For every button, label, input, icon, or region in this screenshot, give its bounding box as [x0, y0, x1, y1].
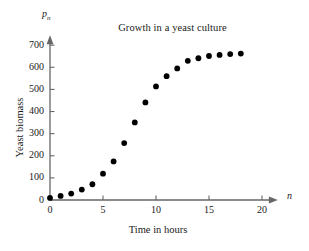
- data-point: [132, 120, 138, 126]
- y-tick-label: 300: [14, 127, 44, 138]
- data-point: [206, 53, 212, 59]
- tick-marks-group: [50, 45, 262, 200]
- y-tick-label: 200: [14, 149, 44, 160]
- data-point: [100, 171, 106, 177]
- y-axis-variable-symbol: pn: [42, 8, 51, 22]
- x-axis-label: Time in hours: [98, 224, 218, 235]
- y-tick-label: 100: [14, 171, 44, 182]
- data-point: [164, 73, 170, 79]
- x-tick-label: 20: [250, 204, 274, 215]
- data-point: [238, 51, 244, 57]
- y-tick-label: 600: [14, 61, 44, 72]
- axes-group: [47, 35, 278, 203]
- data-point: [68, 191, 74, 197]
- data-point: [143, 100, 149, 106]
- y-tick-label: 700: [14, 39, 44, 50]
- x-tick-label: 0: [38, 204, 62, 215]
- data-point: [79, 187, 85, 193]
- y-axis-variable-subscript: n: [47, 14, 51, 22]
- data-points-group: [47, 51, 244, 201]
- data-point: [121, 140, 127, 146]
- data-point: [227, 51, 233, 57]
- data-point: [47, 195, 53, 201]
- data-point: [174, 66, 180, 72]
- data-point: [196, 55, 202, 61]
- y-axis-arrowhead: [47, 35, 54, 44]
- data-point: [111, 158, 117, 164]
- x-axis-variable-symbol: n: [287, 190, 292, 201]
- data-point: [90, 181, 96, 187]
- x-tick-label: 15: [197, 204, 221, 215]
- data-point: [217, 52, 223, 58]
- data-point: [58, 193, 64, 199]
- y-tick-label: 400: [14, 105, 44, 116]
- data-point: [185, 58, 191, 64]
- data-point: [153, 84, 159, 90]
- x-tick-label: 10: [144, 204, 168, 215]
- chart-title: Growth in a yeast culture: [95, 22, 250, 33]
- y-tick-label: 500: [14, 83, 44, 94]
- x-tick-label: 5: [91, 204, 115, 215]
- yeast-growth-chart-figure: Growth in a yeast culture Time in hours …: [0, 0, 309, 251]
- y-tick-label: 0: [14, 194, 44, 205]
- x-axis-arrowhead: [269, 197, 278, 204]
